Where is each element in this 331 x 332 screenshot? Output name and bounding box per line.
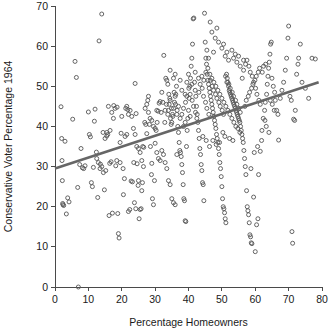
data-point [277, 138, 281, 142]
data-point [111, 116, 115, 120]
data-point [136, 183, 140, 187]
data-point [209, 98, 213, 102]
data-point [176, 104, 180, 108]
data-point [146, 94, 150, 98]
y-tick-label: 60 [36, 40, 48, 52]
data-point [91, 165, 95, 169]
data-point [224, 221, 228, 225]
x-tick-label: 80 [316, 293, 328, 305]
data-point [59, 105, 63, 109]
data-point [67, 200, 71, 204]
data-points-group [59, 11, 317, 289]
x-tick-label: 30 [149, 293, 161, 305]
data-point [189, 76, 193, 80]
data-point [265, 82, 269, 86]
data-point [163, 161, 167, 165]
data-point [201, 134, 205, 138]
data-point [64, 212, 68, 216]
data-point [184, 100, 188, 104]
data-point [211, 110, 215, 114]
data-point [208, 72, 212, 76]
data-point [73, 59, 77, 63]
data-point [102, 188, 106, 192]
x-tick-label: 60 [249, 293, 261, 305]
data-point [216, 88, 220, 92]
data-point [295, 72, 299, 76]
x-tick-label: 0 [52, 293, 58, 305]
data-point [79, 147, 83, 151]
data-point [185, 80, 189, 84]
data-point [133, 81, 137, 85]
data-point [273, 90, 277, 94]
data-point [244, 173, 248, 177]
data-point [221, 197, 225, 201]
data-point [273, 98, 277, 102]
data-point [66, 196, 70, 200]
data-point [141, 165, 145, 169]
data-point [155, 120, 159, 124]
data-point [223, 211, 227, 215]
data-point [92, 119, 96, 123]
data-point [213, 36, 217, 40]
data-point [296, 62, 300, 66]
x-tick-label: 70 [283, 293, 295, 305]
data-point [181, 183, 185, 187]
data-point [244, 98, 248, 102]
data-point [140, 189, 144, 193]
data-point [231, 138, 235, 142]
data-point [288, 94, 292, 98]
data-point [121, 193, 125, 197]
data-point [191, 42, 195, 46]
data-point [215, 136, 219, 140]
data-point [260, 128, 264, 132]
data-point [211, 106, 215, 110]
data-point [119, 131, 123, 135]
scatter-plot-figure: 01020304050607001020304050607080Percenta… [0, 0, 331, 332]
data-point [130, 114, 134, 118]
data-point [60, 159, 64, 163]
data-point [222, 100, 226, 104]
data-point [198, 82, 202, 86]
data-point [219, 167, 223, 171]
data-point [198, 147, 202, 151]
data-point [212, 88, 216, 92]
data-point [249, 167, 253, 171]
data-point [210, 102, 214, 106]
data-point [276, 112, 280, 116]
data-point [271, 84, 275, 88]
data-point [220, 46, 224, 50]
data-point [215, 26, 219, 30]
data-point [267, 130, 271, 134]
data-point [208, 20, 212, 24]
data-point [146, 110, 150, 114]
data-point [140, 181, 144, 185]
data-point [165, 167, 169, 171]
data-point [183, 120, 187, 124]
data-point [252, 195, 256, 199]
data-point [222, 42, 226, 46]
data-point [132, 201, 136, 205]
data-point [117, 236, 121, 240]
data-point [149, 173, 153, 177]
data-point [247, 64, 251, 68]
y-tick-label: 40 [36, 120, 48, 132]
data-point [212, 80, 216, 84]
data-point [197, 128, 201, 132]
data-point [107, 214, 111, 218]
data-point [185, 128, 189, 132]
y-axis-title: Conservative Voter Percentage 1964 [2, 61, 14, 233]
x-tick-label: 20 [116, 293, 128, 305]
data-point [221, 130, 225, 134]
data-point [205, 106, 209, 110]
x-axis-title: Percentage Homeowners [129, 316, 247, 328]
data-point [217, 40, 221, 44]
data-point [138, 151, 142, 155]
data-point [151, 203, 155, 207]
data-point [287, 24, 291, 28]
data-point [255, 92, 259, 96]
y-tick-label: 50 [36, 80, 48, 92]
data-point [200, 86, 204, 90]
data-point [218, 161, 222, 165]
data-point [300, 80, 304, 84]
data-point [131, 126, 135, 130]
